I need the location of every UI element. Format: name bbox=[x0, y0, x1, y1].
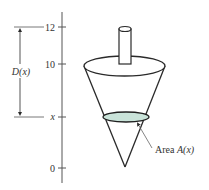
tick-label-x: x bbox=[50, 111, 56, 122]
depth-dimension: D(x) bbox=[8, 27, 44, 117]
cone-tank bbox=[84, 27, 165, 168]
depth-label: D(x) bbox=[11, 66, 31, 78]
area-label-prefix: Area bbox=[155, 144, 177, 155]
cross-section-area bbox=[103, 112, 149, 122]
leader-arrow-icon bbox=[138, 124, 152, 148]
tick-label-10: 10 bbox=[45, 59, 55, 70]
tick-label-12: 12 bbox=[45, 22, 55, 33]
area-label: Area A(x) bbox=[155, 144, 195, 156]
area-label-func: A(x) bbox=[176, 144, 195, 156]
depth-axis: 12 10 x 0 bbox=[45, 12, 66, 183]
tick-label-0: 0 bbox=[50, 163, 55, 174]
cone-tank-diagram: 12 10 x 0 D(x) Area A(x) bbox=[0, 0, 209, 190]
drain-pipe bbox=[119, 27, 131, 65]
area-annotation: Area A(x) bbox=[138, 124, 195, 156]
